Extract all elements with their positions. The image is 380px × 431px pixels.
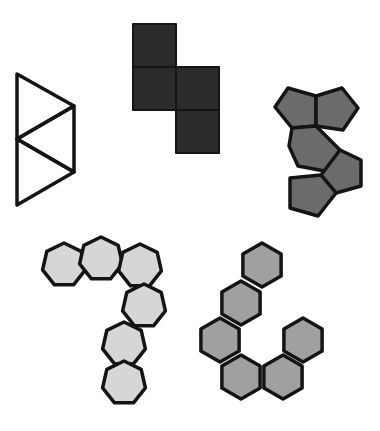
shapes-figure: [0, 0, 380, 431]
pentagon: [275, 88, 316, 128]
hexagon: [201, 318, 239, 362]
hexagon: [222, 281, 260, 325]
square: [133, 67, 176, 110]
hexagon: [264, 355, 302, 399]
figure-canvas: [0, 0, 380, 431]
square: [133, 24, 176, 67]
pentagon-cluster: [275, 88, 361, 216]
heptagon-chain: [43, 237, 166, 403]
hexagon: [222, 355, 260, 399]
triangle: [17, 106, 74, 172]
triangle: [17, 139, 74, 205]
heptagon: [103, 361, 146, 403]
square: [176, 67, 219, 110]
heptagon: [119, 244, 162, 286]
square-tetromino: [133, 24, 219, 153]
triangle: [17, 74, 74, 139]
triangle-strip: [17, 74, 74, 205]
square: [176, 110, 219, 153]
heptagon: [80, 237, 123, 279]
pentagon: [316, 88, 358, 130]
heptagon: [123, 284, 166, 326]
hexagon: [284, 318, 322, 362]
hexagon-chain: [201, 243, 322, 399]
heptagon: [103, 322, 146, 364]
hexagon: [243, 243, 281, 287]
